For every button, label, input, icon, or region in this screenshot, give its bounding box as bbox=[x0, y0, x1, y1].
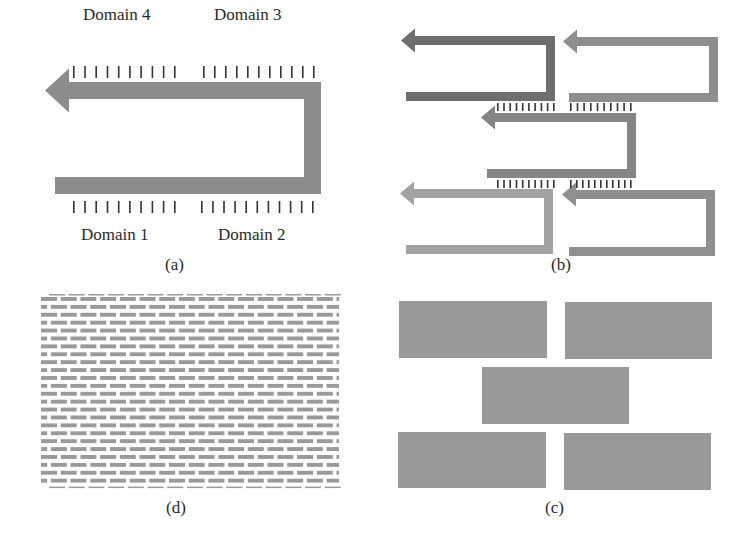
brick bbox=[80, 439, 96, 443]
tick-mark bbox=[597, 103, 599, 111]
tick-mark bbox=[541, 103, 543, 111]
brick bbox=[49, 294, 65, 296]
brick bbox=[110, 447, 126, 451]
brick bbox=[238, 297, 254, 301]
brick bbox=[238, 392, 254, 396]
brick bbox=[208, 305, 224, 309]
brick bbox=[258, 455, 274, 459]
brick bbox=[51, 337, 67, 341]
brick bbox=[199, 313, 215, 317]
brick bbox=[140, 313, 156, 317]
brick bbox=[297, 408, 313, 412]
brick bbox=[189, 368, 205, 372]
brick bbox=[317, 423, 333, 427]
brick bbox=[228, 352, 244, 356]
brick bbox=[189, 321, 205, 325]
brick bbox=[130, 447, 146, 451]
brick bbox=[140, 344, 156, 348]
brick bbox=[130, 463, 146, 467]
brick bbox=[120, 297, 136, 301]
brick bbox=[228, 305, 244, 309]
brick bbox=[159, 313, 175, 317]
brick bbox=[325, 487, 341, 489]
caption-c: (c) bbox=[545, 498, 564, 518]
brick bbox=[226, 294, 242, 296]
brick bbox=[41, 376, 57, 380]
brick bbox=[317, 376, 333, 380]
brick bbox=[148, 294, 164, 296]
brick bbox=[277, 423, 293, 427]
brick bbox=[218, 313, 234, 317]
brick bbox=[307, 384, 323, 388]
brick bbox=[80, 408, 96, 412]
brick bbox=[90, 400, 106, 404]
brick bbox=[90, 352, 106, 356]
brick bbox=[179, 455, 195, 459]
brick bbox=[71, 416, 87, 420]
tick-mark bbox=[623, 103, 625, 111]
brick bbox=[149, 321, 165, 325]
brick bbox=[199, 344, 215, 348]
brick bbox=[187, 487, 203, 489]
tick-mark bbox=[617, 103, 619, 111]
brick bbox=[100, 423, 116, 427]
brick bbox=[307, 321, 323, 325]
brick bbox=[218, 360, 234, 364]
brick bbox=[140, 455, 156, 459]
brick bbox=[238, 455, 254, 459]
brick bbox=[179, 297, 195, 301]
brick bbox=[248, 384, 264, 388]
brick bbox=[287, 368, 303, 372]
brick bbox=[159, 423, 175, 427]
brick bbox=[317, 455, 333, 459]
arrow-row2 bbox=[481, 106, 636, 179]
brick bbox=[268, 384, 284, 388]
tick-mark bbox=[577, 103, 579, 111]
brick bbox=[51, 321, 67, 325]
brick bbox=[71, 384, 87, 388]
brick bbox=[238, 408, 254, 412]
brick bbox=[218, 344, 234, 348]
brick bbox=[189, 384, 205, 388]
brick bbox=[268, 368, 284, 372]
brick bbox=[41, 305, 47, 309]
brick bbox=[248, 368, 264, 372]
brick bbox=[41, 463, 47, 467]
brick bbox=[110, 400, 126, 404]
brick bbox=[337, 455, 340, 459]
brick bbox=[149, 352, 165, 356]
brick bbox=[100, 297, 116, 301]
brick bbox=[199, 376, 215, 380]
tick-mark bbox=[509, 103, 511, 111]
brick bbox=[120, 360, 136, 364]
brick bbox=[110, 431, 126, 435]
brick bbox=[287, 321, 303, 325]
brick bbox=[248, 352, 264, 356]
brick bbox=[317, 408, 333, 412]
brick bbox=[80, 313, 96, 317]
brick bbox=[159, 360, 175, 364]
brick bbox=[287, 337, 303, 341]
brick bbox=[337, 344, 340, 348]
brick bbox=[159, 439, 175, 443]
brick bbox=[307, 305, 323, 309]
brick bbox=[228, 368, 244, 372]
brick bbox=[120, 376, 136, 380]
brick bbox=[110, 479, 126, 483]
brick bbox=[51, 305, 67, 309]
brick bbox=[307, 479, 323, 483]
brick bbox=[327, 400, 339, 404]
block-middle bbox=[482, 367, 629, 424]
brick bbox=[100, 313, 116, 317]
brick bbox=[228, 479, 244, 483]
brick bbox=[61, 329, 77, 333]
brick bbox=[61, 344, 77, 348]
brick bbox=[100, 360, 116, 364]
brick bbox=[287, 431, 303, 435]
tick-mark bbox=[630, 103, 632, 111]
brick bbox=[108, 294, 124, 296]
brick bbox=[100, 455, 116, 459]
brick bbox=[130, 479, 146, 483]
brick bbox=[277, 344, 293, 348]
brick bbox=[189, 431, 205, 435]
